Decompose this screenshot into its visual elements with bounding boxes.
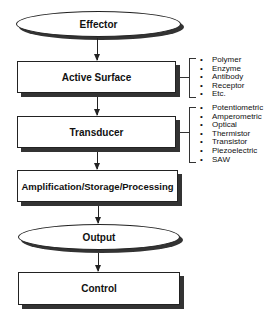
output-label: Output xyxy=(83,232,116,243)
transducer-options-list: Potentiometric Amperometric Optical Ther… xyxy=(199,104,263,164)
arrow-active-surface-to-transducer xyxy=(97,97,98,115)
active-surface-options-list: Polymer Enzyme Antibody Receptor Etc. xyxy=(199,56,244,99)
arrow-output-to-control xyxy=(98,253,99,271)
control-label: Control xyxy=(81,283,117,294)
amplification-node: Amplification/Storage/Processing xyxy=(17,170,178,202)
control-node: Control xyxy=(18,272,180,305)
output-node: Output xyxy=(18,224,180,250)
option-etc: Etc. xyxy=(199,90,244,99)
active-surface-bracket xyxy=(189,58,196,98)
transducer-label: Transducer xyxy=(70,127,124,138)
option-piezoelectric: Piezoelectric xyxy=(199,147,263,156)
active-surface-label: Active Surface xyxy=(62,72,131,83)
active-surface-connector xyxy=(180,77,189,78)
arrow-effector-to-active-surface xyxy=(97,38,98,60)
active-surface-node: Active Surface xyxy=(17,61,176,93)
effector-node: Effector xyxy=(16,11,181,37)
arrow-amplification-to-output xyxy=(98,206,99,223)
transducer-node: Transducer xyxy=(17,116,176,148)
arrow-transducer-to-amplification xyxy=(97,152,98,169)
option-saw: SAW xyxy=(199,156,263,165)
amplification-label: Amplification/Storage/Processing xyxy=(21,181,173,192)
effector-label: Effector xyxy=(80,19,118,30)
transducer-connector xyxy=(180,132,189,133)
transducer-bracket xyxy=(189,107,196,163)
